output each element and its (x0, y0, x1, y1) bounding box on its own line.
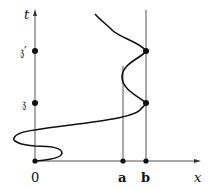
a-label: a (118, 170, 127, 185)
x-axis-arrow-icon (194, 159, 201, 163)
curve (14, 14, 146, 161)
b-z-dot (143, 100, 149, 106)
z-dot (32, 100, 38, 106)
b-z-prime-dot (143, 48, 149, 54)
z-label: 𝔷 (22, 97, 26, 111)
z-prime-dot (32, 48, 38, 54)
t-axis-label: t (24, 7, 30, 22)
origin-dot (32, 158, 37, 163)
b-label: b (141, 170, 150, 185)
diagram-canvas: t x 0 𝔷′ 𝔷 a b (0, 0, 212, 189)
origin-label: 0 (31, 170, 39, 185)
z-prime-label: 𝔷′ (20, 45, 27, 59)
t-axis-arrow-icon (33, 9, 37, 16)
x-axis-label: x (194, 170, 202, 185)
a-dot (120, 158, 125, 163)
b-dot (143, 158, 148, 163)
